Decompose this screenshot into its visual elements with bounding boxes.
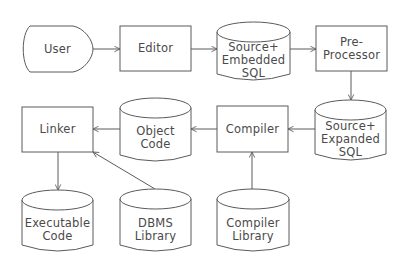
editor-label-line: Editor [138,42,173,55]
compiler-library-line-1: Compiler [226,217,279,230]
compiler-label: Compiler [217,106,288,152]
source-embedded-line-3: SQL [242,67,265,80]
dbms-library-line-1: DBMS [138,217,173,230]
compiler-label-line: Compiler [226,123,279,136]
editor-label: Editor [120,26,191,71]
object-code-line-2: Code [140,138,170,151]
user-label: User [22,26,93,72]
compiler-library-line-2: Library [232,230,274,243]
source-embedded-label: Source+ Embedded SQL [217,40,290,80]
compiler-library-label: Compiler Library [217,207,289,252]
dbms-library-line-2: Library [135,230,177,243]
linker-label-line: Linker [39,123,75,136]
executable-code-label: Executable Code [22,208,93,252]
preprocessor-line-2: Processor [323,49,380,62]
source-expanded-line-3: SQL [339,146,362,159]
source-embedded-line-2: Embedded [222,54,285,67]
source-expanded-line-2: Expanded [321,133,380,146]
dbms-library-label: DBMS Library [120,207,191,252]
source-expanded-line-1: Source+ [325,120,376,133]
linker-label: Linker [22,107,93,152]
source-embedded-line-1: Source+ [228,41,279,54]
preprocessor-label: Pre- Processor [316,26,387,71]
source-expanded-label: Source+ Expanded SQL [315,118,386,160]
object-code-label: Object Code [120,116,191,160]
preprocessor-line-1: Pre- [340,36,363,49]
user-label-line: User [44,43,71,56]
executable-code-line-2: Code [42,230,72,243]
